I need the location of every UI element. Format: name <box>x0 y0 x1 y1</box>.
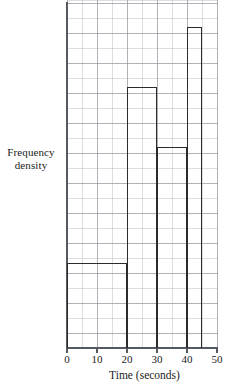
x-tick-label-0: 0 <box>56 353 78 366</box>
x-tick-label-50: 50 <box>206 353 228 366</box>
y-axis-label-line-1: Frequency <box>0 146 62 159</box>
histogram-bar-40-45 <box>187 27 202 348</box>
x-tick-label-30: 30 <box>146 353 168 366</box>
x-tick-label-10: 10 <box>86 353 108 366</box>
y-axis-label: Frequency density <box>0 146 62 172</box>
x-tick-label-40: 40 <box>176 353 198 366</box>
histogram-bar-20-30 <box>127 87 157 348</box>
histogram-bar-30-40 <box>157 147 187 348</box>
histogram-bar-0-20 <box>67 263 127 349</box>
x-axis-label: Time (seconds) <box>55 368 234 382</box>
x-tick-label-20: 20 <box>116 353 138 366</box>
histogram-figure: Frequency density 01020304050 Time (seco… <box>0 0 234 386</box>
y-axis-label-line-2: density <box>0 159 62 172</box>
